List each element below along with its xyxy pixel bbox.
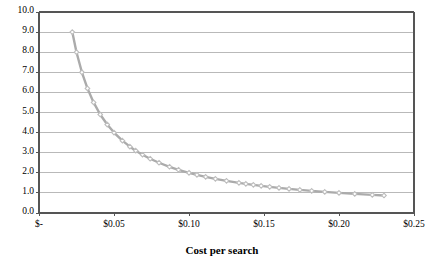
y-tick-label: 9.0 (22, 25, 34, 35)
data-point-marker (251, 183, 256, 188)
y-tick-label: 6.0 (22, 85, 34, 95)
x-tick-label: $0.20 (299, 219, 379, 229)
chart-container: Cost per search 0.01.02.03.04.05.06.07.0… (0, 0, 444, 268)
x-tick-label: $- (0, 219, 79, 229)
data-point-marker (298, 188, 303, 193)
y-tick-label: 1.0 (22, 186, 34, 196)
y-tick-label: 0.0 (22, 206, 34, 216)
y-tick-label: 4.0 (22, 126, 34, 136)
y-tick-label: 2.0 (22, 166, 34, 176)
data-point-marker (287, 187, 292, 192)
x-tick-label: $0.10 (149, 219, 229, 229)
data-point-marker (277, 186, 282, 191)
y-tick-label: 8.0 (22, 45, 34, 55)
data-point-marker (213, 177, 218, 182)
x-tick-label: $0.15 (224, 219, 304, 229)
data-point-marker (382, 193, 387, 198)
data-point-marker (224, 179, 229, 184)
data-point-marker (337, 191, 342, 196)
data-point-marker (322, 190, 327, 195)
x-tick-label: $0.05 (74, 219, 154, 229)
y-tick-label: 3.0 (22, 146, 34, 156)
x-tick-label: $0.25 (374, 219, 444, 229)
y-tick-label: 10.0 (17, 5, 34, 15)
data-point-marker (244, 182, 249, 187)
data-point-marker (237, 181, 242, 186)
data-point-marker (352, 192, 357, 197)
data-point-marker (70, 30, 75, 35)
y-tick-label: 7.0 (22, 65, 34, 75)
data-point-marker (267, 185, 272, 190)
data-point-marker (203, 175, 208, 180)
x-axis-title: Cost per search (0, 244, 444, 256)
series-line-searches (72, 32, 384, 195)
y-tick-label: 5.0 (22, 106, 34, 116)
data-point-marker (259, 184, 264, 189)
